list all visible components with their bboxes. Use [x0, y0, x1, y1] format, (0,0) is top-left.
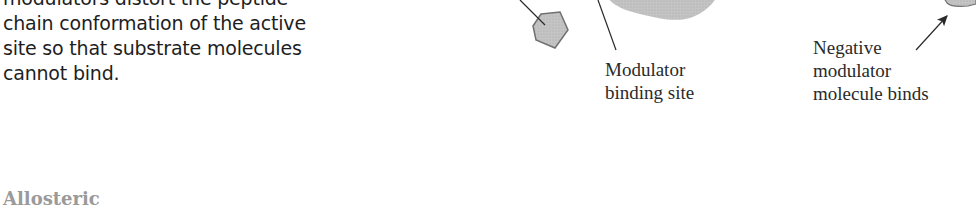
enzyme-diagram	[0, 0, 976, 214]
negative-modulator-shape	[944, 0, 976, 6]
pointer-line	[520, 0, 545, 25]
binding-site-pointer-line	[598, 0, 616, 50]
label-line: molecule binds	[813, 82, 929, 105]
negative-modulator-label: Negative modulator molecule binds	[813, 36, 929, 105]
label-line: binding site	[605, 81, 694, 104]
enzyme-body-shape	[608, 0, 716, 20]
modulator-binding-site-label: Modulator binding site	[605, 58, 694, 104]
label-line: modulator	[813, 59, 929, 82]
label-line: Negative	[813, 36, 929, 59]
label-line: Modulator	[605, 58, 694, 81]
modulator-molecule-shape	[533, 12, 568, 48]
